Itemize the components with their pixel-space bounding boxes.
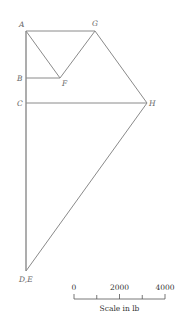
label-b: B: [16, 74, 23, 83]
line-h-de: [26, 103, 147, 271]
label-h: H: [148, 99, 156, 108]
label-g: G: [92, 19, 98, 28]
label-a: A: [18, 20, 25, 29]
force-diagram: A G B F C H D,E 0 2000 4000 Scale in lb: [0, 0, 185, 327]
scale-tick-4000: 4000: [155, 283, 174, 292]
line-a-f: [26, 31, 60, 78]
scale-tick-0: 0: [72, 283, 77, 292]
label-c: C: [17, 99, 23, 108]
label-de: D,E: [18, 275, 33, 284]
label-f: F: [61, 79, 68, 88]
scale-bar: [74, 294, 165, 299]
scale-caption: Scale in lb: [100, 304, 140, 313]
line-g-h: [95, 31, 147, 103]
scale-tick-2000: 2000: [110, 283, 129, 292]
line-f-g: [60, 31, 95, 78]
